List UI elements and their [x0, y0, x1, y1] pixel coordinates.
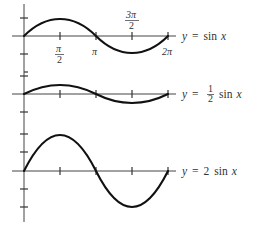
equation-label-2-fn: sinx: [219, 88, 242, 100]
tick-label-3pi-half-den: 2: [129, 20, 134, 31]
equation-label-3: y=2sinx: [181, 165, 238, 178]
plot-2-sin-x: y=2sinx: [12, 134, 238, 207]
equation-label-2: y=: [181, 88, 199, 101]
tick-label-pi-half-num: π: [56, 43, 62, 54]
tick-label-3pi-half-num: 3π: [125, 9, 137, 20]
tick-label-2pi: 2π: [162, 46, 173, 57]
tick-label-pi-half-den: 2: [57, 54, 62, 65]
sine-graphs-diagram: π 2 π 3π 2 2π y=sinx y= 1 2 sinx: [0, 0, 257, 227]
equation-label-1: y=sinx: [181, 30, 227, 43]
tick-label-pi: π: [92, 46, 98, 57]
plot-half-sin-x: y= 1 2 sinx: [12, 76, 242, 112]
fraction-denominator: 2: [208, 93, 213, 104]
plot-sin-x: π 2 π 3π 2 2π y=sinx: [12, 9, 227, 72]
